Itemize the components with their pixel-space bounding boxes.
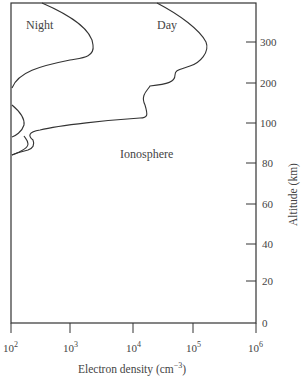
y-ticks — [246, 42, 256, 281]
svg-text:0: 0 — [262, 317, 268, 329]
day-label: Day — [157, 18, 177, 32]
chart: Night Day Ionosphere 0 20 40 60 80 100 2… — [0, 0, 301, 381]
x-ticks — [11, 323, 256, 333]
svg-text:60: 60 — [262, 198, 274, 210]
y-tick-labels: 0 20 40 60 80 100 200 300 — [260, 36, 277, 329]
night-label: Night — [26, 18, 54, 32]
svg-text:40: 40 — [262, 238, 274, 250]
y-axis-title: Altitude (km) — [287, 163, 300, 226]
svg-text:103: 103 — [63, 340, 78, 354]
plot-frame — [11, 3, 256, 323]
svg-text:106: 106 — [248, 340, 263, 354]
x-axis-title: Electron density (cm−3) — [78, 361, 186, 376]
svg-text:200: 200 — [260, 77, 277, 89]
svg-text:100: 100 — [260, 117, 277, 129]
ionosphere-label: Ionosphere — [120, 147, 173, 161]
svg-text:102: 102 — [3, 340, 18, 354]
svg-text:20: 20 — [262, 275, 274, 287]
svg-text:104: 104 — [126, 340, 141, 354]
svg-text:80: 80 — [262, 157, 274, 169]
x-tick-labels: 102 103 104 105 106 — [3, 340, 263, 354]
svg-text:105: 105 — [186, 340, 201, 354]
svg-text:300: 300 — [260, 36, 277, 48]
